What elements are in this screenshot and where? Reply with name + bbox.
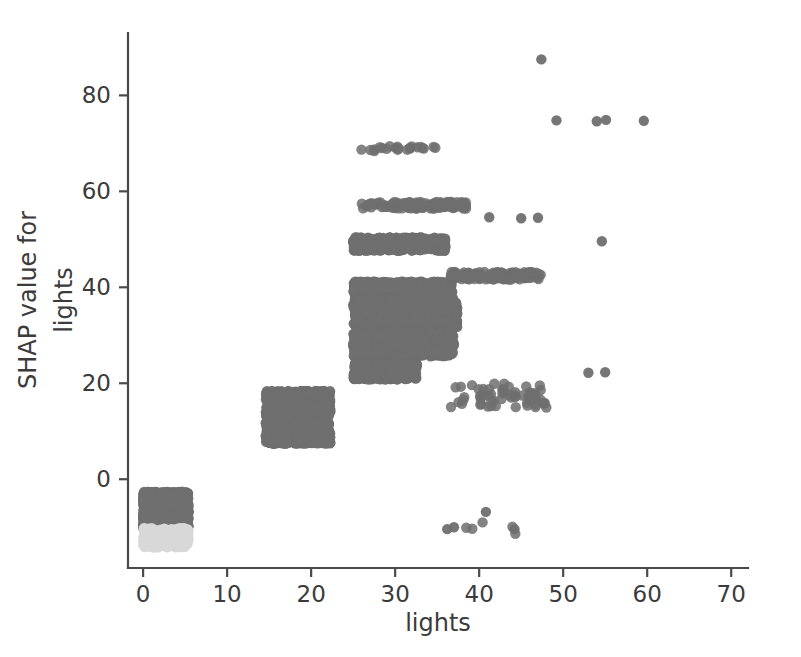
data-point — [290, 389, 300, 399]
data-point — [309, 404, 319, 414]
data-point — [180, 504, 190, 514]
y-axis-title-line2: lights — [50, 267, 78, 333]
data-point — [486, 389, 496, 399]
data-point — [406, 276, 416, 286]
data-point — [311, 419, 321, 429]
data-point — [269, 390, 279, 400]
data-point — [160, 503, 170, 513]
data-point — [363, 241, 373, 251]
data-point — [393, 143, 403, 153]
data-point — [517, 390, 527, 400]
data-point — [180, 524, 190, 534]
x-tick-label: 0 — [136, 581, 151, 607]
data-point — [484, 212, 494, 222]
data-point — [443, 333, 453, 343]
data-point — [511, 402, 521, 412]
data-point — [150, 528, 160, 538]
scatter-plot-figure: 010203040506070 020406080 lights SHAP va… — [0, 0, 801, 657]
data-point — [530, 270, 540, 280]
data-point — [484, 270, 494, 280]
data-point — [430, 198, 440, 208]
x-tick-label: 40 — [465, 581, 494, 607]
data-point — [434, 297, 444, 307]
data-point — [356, 144, 366, 154]
x-tick-label: 50 — [549, 581, 578, 607]
y-tick-label: 0 — [96, 466, 111, 492]
data-point — [168, 534, 178, 544]
data-point — [281, 426, 291, 436]
data-point — [445, 200, 455, 210]
data-point — [463, 274, 473, 284]
data-point — [438, 306, 448, 316]
data-point — [539, 398, 549, 408]
data-point — [362, 339, 372, 349]
data-point — [296, 436, 306, 446]
data-point — [357, 360, 367, 370]
data-point — [352, 295, 362, 305]
data-point — [458, 395, 468, 405]
data-point — [491, 401, 501, 411]
data-point — [535, 380, 545, 390]
data-point — [363, 199, 373, 209]
data-point — [601, 115, 611, 125]
x-tick-label: 60 — [633, 581, 662, 607]
data-point — [451, 298, 461, 308]
data-point — [389, 242, 399, 252]
data-point — [451, 310, 461, 320]
x-axis-title: lights — [405, 609, 471, 637]
data-point — [592, 116, 602, 126]
data-point — [439, 316, 449, 326]
data-point — [416, 142, 426, 152]
data-point — [364, 301, 374, 311]
data-point — [305, 388, 315, 398]
data-point — [428, 142, 438, 152]
data-point — [382, 278, 392, 288]
data-point — [399, 199, 409, 209]
data-point — [433, 237, 443, 247]
data-point — [551, 115, 561, 125]
data-point — [405, 363, 415, 373]
data-point — [509, 524, 519, 534]
data-point — [424, 326, 434, 336]
y-tick-label: 40 — [82, 274, 111, 300]
y-tick-label: 80 — [82, 82, 111, 108]
data-point — [388, 328, 398, 338]
data-point — [414, 328, 424, 338]
data-point — [514, 270, 524, 280]
data-point — [354, 349, 364, 359]
data-point — [141, 505, 151, 515]
data-point — [375, 233, 385, 243]
data-point — [477, 517, 487, 527]
data-point — [450, 382, 460, 392]
y-tick-label: 60 — [82, 178, 111, 204]
data-point — [536, 54, 546, 64]
x-tick-label: 30 — [381, 581, 410, 607]
y-axis-title-line1: SHAP value for — [14, 211, 42, 389]
data-point — [489, 379, 499, 389]
data-point — [359, 284, 369, 294]
x-tick-label: 10 — [212, 581, 241, 607]
data-point — [583, 368, 593, 378]
data-point — [429, 349, 439, 359]
data-point — [381, 144, 391, 154]
data-point — [597, 236, 607, 246]
data-point — [376, 346, 386, 356]
data-point — [410, 199, 420, 209]
data-point — [421, 240, 431, 250]
data-point — [505, 390, 515, 400]
x-tick-label: 70 — [717, 581, 746, 607]
data-point — [449, 522, 459, 532]
data-point — [499, 379, 509, 389]
data-point — [398, 244, 408, 254]
data-point — [375, 374, 385, 384]
data-point — [374, 331, 384, 341]
data-point — [388, 367, 398, 377]
data-point — [454, 201, 464, 211]
data-point — [533, 213, 543, 223]
data-point — [402, 300, 412, 310]
plot-canvas: 010203040506070 020406080 lights SHAP va… — [0, 0, 801, 657]
data-point — [353, 316, 363, 326]
data-point — [451, 271, 461, 281]
data-point — [292, 417, 302, 427]
data-point — [278, 400, 288, 410]
